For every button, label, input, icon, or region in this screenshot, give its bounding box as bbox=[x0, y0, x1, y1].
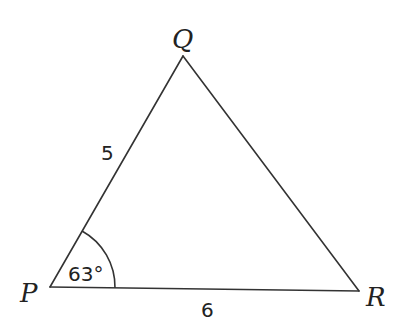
vertex-label-q: Q bbox=[172, 24, 193, 54]
angle-label-p: 63° bbox=[68, 262, 103, 286]
side-pq bbox=[50, 56, 183, 287]
side-label-pq: 5 bbox=[101, 141, 114, 165]
vertex-label-r: R bbox=[365, 282, 386, 312]
side-pr bbox=[50, 287, 359, 291]
triangle-diagram: Q P R 5 6 63° bbox=[0, 0, 403, 335]
side-qr bbox=[183, 56, 359, 291]
vertex-label-p: P bbox=[19, 278, 38, 308]
side-label-pr: 6 bbox=[201, 298, 214, 322]
